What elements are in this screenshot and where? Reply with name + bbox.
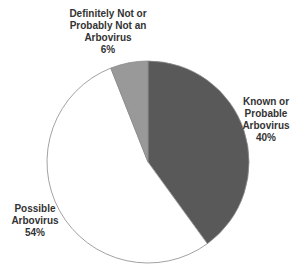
slice-percent: 6% [69,44,146,56]
slice-label: PossibleArbovirus54% [11,203,58,239]
slice-percent: 40% [242,132,289,144]
slice-label-line: Possible [11,203,58,215]
slice-label-line: Probable [242,108,289,120]
slice-label-line: Arbovirus [69,32,146,44]
slice-label-line: Definitely Not or [69,8,146,20]
slice-label: Known orProbableArbovirus40% [242,96,289,144]
slice-label-line: Known or [242,96,289,108]
pie-slices [47,61,249,263]
slice-label-line: Probably Not an [69,20,146,32]
slice-label: Definitely Not orProbably Not anArboviru… [69,8,146,56]
slice-label-line: Arbovirus [11,215,58,227]
slice-label-line: Arbovirus [242,120,289,132]
slice-percent: 54% [11,227,58,239]
